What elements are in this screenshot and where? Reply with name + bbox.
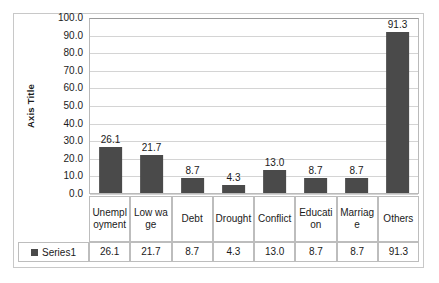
bar-value-label: 91.3 <box>388 20 407 30</box>
bar-slot: 13.0 <box>254 19 295 193</box>
bar-value-label: 8.7 <box>309 166 323 176</box>
bar-slot: 91.3 <box>377 19 418 193</box>
plot-region: Axis Title 100.090.080.070.060.050.040.0… <box>14 18 419 194</box>
table-value-cell: 4.3 <box>213 242 254 262</box>
y-axis-tick-70-0: 70.0 <box>64 66 83 76</box>
bar[interactable] <box>304 178 328 193</box>
bar-slot: 8.7 <box>336 19 377 193</box>
bar[interactable] <box>263 170 287 193</box>
y-axis-tick-40-0: 40.0 <box>64 119 83 129</box>
y-axis-tick-100-0: 100.0 <box>58 13 83 23</box>
gridline-0-0 <box>90 194 418 195</box>
bar[interactable] <box>345 178 369 193</box>
legend-entry-series1[interactable]: Series1 <box>18 242 89 262</box>
bar-value-label: 8.7 <box>350 166 364 176</box>
bar-slot: 8.7 <box>172 19 213 193</box>
table-category-cell: Others <box>378 196 419 242</box>
y-axis-tick-10-0: 10.0 <box>64 171 83 181</box>
y-axis-tick-90-0: 90.0 <box>64 31 83 41</box>
bar-value-label: 26.1 <box>101 135 120 145</box>
plot-area: 26.121.78.74.313.08.78.791.3 <box>89 18 419 194</box>
bar-slot: 26.1 <box>90 19 131 193</box>
bar-series: 26.121.78.74.313.08.78.791.3 <box>90 19 418 193</box>
table-category-cell: Drought <box>213 196 254 242</box>
chart-data-table: UnemploymentLow wageDebtDroughtConflictE… <box>18 196 419 264</box>
table-category-cell: Debt <box>172 196 213 242</box>
table-category-cell: Conflict <box>254 196 295 242</box>
bar-value-label: 4.3 <box>227 173 241 183</box>
y-axis-tick-labels: 100.090.080.070.060.050.040.030.020.010.… <box>40 18 87 194</box>
bar[interactable] <box>181 178 205 193</box>
bar-slot: 4.3 <box>213 19 254 193</box>
bar-value-label: 13.0 <box>265 158 284 168</box>
y-axis-title: Axis Title <box>25 84 36 128</box>
table-category-cell: Low wage <box>130 196 171 242</box>
y-axis-tick-30-0: 30.0 <box>64 136 83 146</box>
table-value-cell: 26.1 <box>89 242 130 262</box>
y-axis-tick-50-0: 50.0 <box>64 101 83 111</box>
bar[interactable] <box>386 32 410 193</box>
bar-slot: 21.7 <box>131 19 172 193</box>
bar-value-label: 21.7 <box>142 143 161 153</box>
bar-value-label: 8.7 <box>186 166 200 176</box>
legend-label: Series1 <box>42 247 76 258</box>
y-axis-tick-20-0: 20.0 <box>64 154 83 164</box>
bar[interactable] <box>99 147 123 193</box>
bar[interactable] <box>140 155 164 193</box>
table-value-cell: 91.3 <box>378 242 419 262</box>
series-value-row: Series1 26.121.78.74.313.08.78.791.3 <box>18 242 419 262</box>
table-value-cell: 8.7 <box>337 242 378 262</box>
category-row-spacer <box>18 196 89 242</box>
table-category-cell: Education <box>295 196 336 242</box>
category-label-row: UnemploymentLow wageDebtDroughtConflictE… <box>18 196 419 242</box>
table-value-cell: 8.7 <box>295 242 336 262</box>
table-category-cell: Unemployment <box>89 196 130 242</box>
y-axis-tick-60-0: 60.0 <box>64 83 83 93</box>
table-value-cell: 21.7 <box>130 242 171 262</box>
table-value-cell: 13.0 <box>254 242 295 262</box>
table-value-cell: 8.7 <box>172 242 213 262</box>
bar[interactable] <box>222 185 246 193</box>
bar-slot: 8.7 <box>295 19 336 193</box>
chart-frame: Axis Title 100.090.080.070.060.050.040.0… <box>13 13 424 268</box>
y-axis-tick-80-0: 80.0 <box>64 48 83 58</box>
table-category-cell: Marriage <box>337 196 378 242</box>
y-axis-title-container: Axis Title <box>18 18 42 194</box>
legend-swatch-icon <box>31 249 38 256</box>
